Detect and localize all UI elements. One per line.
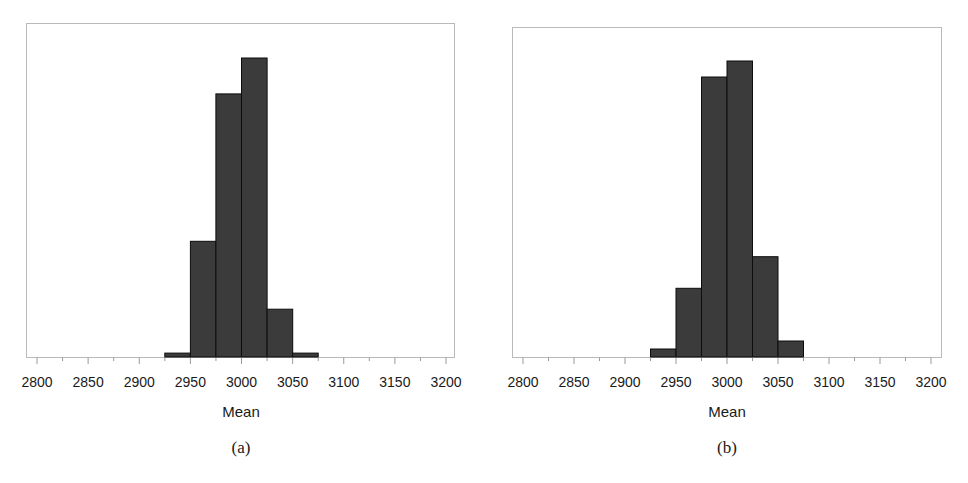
x-tick-label: 3150 (864, 374, 895, 390)
histogram-bar (753, 257, 779, 357)
x-tick-label: 3100 (813, 374, 844, 390)
histogram-b-svg: 280028502900295030003050310031503200 Mea… (0, 0, 968, 483)
bars (651, 61, 804, 357)
x-tick-label: 3200 (915, 374, 946, 390)
histogram-bar (727, 61, 753, 357)
x-tick-label: 2900 (609, 374, 640, 390)
histogram-bar (676, 288, 702, 357)
x-tick-label: 2800 (507, 374, 538, 390)
histogram-bar (702, 77, 728, 357)
x-tick-label: 2850 (558, 374, 589, 390)
panel-caption: (b) (717, 438, 737, 457)
x-tick-label: 3050 (762, 374, 793, 390)
histogram-panel-b: 280028502900295030003050310031503200 Mea… (0, 0, 968, 483)
x-axis-title: Mean (708, 403, 746, 420)
histogram-bar (651, 349, 677, 357)
x-tick-label: 2950 (660, 374, 691, 390)
x-tick-label: 3000 (711, 374, 742, 390)
x-axis: 280028502900295030003050310031503200 (507, 358, 946, 391)
histogram-bar (778, 341, 804, 357)
